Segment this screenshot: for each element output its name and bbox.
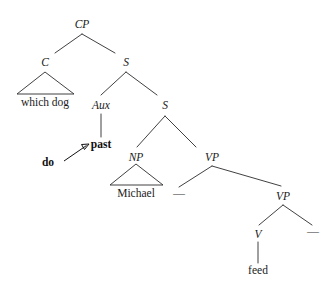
syntax-tree-diagram: CP C S Aux S NP VP VP V which dog past d… — [0, 0, 334, 291]
node-s-top: S — [123, 56, 129, 68]
node-c: C — [41, 56, 49, 68]
terminal-do: do — [42, 156, 54, 168]
terminal-past: past — [91, 138, 112, 151]
diagram-background — [0, 0, 334, 291]
terminal-feed: feed — [248, 264, 268, 276]
node-s-lower: S — [162, 99, 168, 111]
node-aux: Aux — [91, 99, 111, 111]
trace-object-gap: — — [306, 224, 320, 238]
node-vp-lower: VP — [276, 190, 290, 202]
node-vp-upper: VP — [205, 151, 219, 163]
node-np: NP — [128, 151, 144, 163]
terminal-which-dog: which dog — [21, 96, 69, 109]
trace-subject-gap: — — [172, 186, 186, 200]
node-cp: CP — [75, 18, 90, 30]
terminal-michael: Michael — [117, 187, 155, 199]
